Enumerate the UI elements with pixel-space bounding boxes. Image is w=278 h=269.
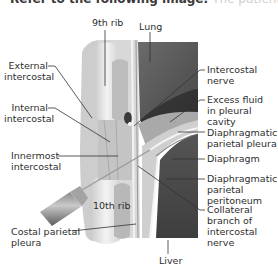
label-internal-intercostal: Internal intercostal bbox=[4, 102, 48, 124]
label-lung: Lung bbox=[139, 21, 162, 32]
label-diaphragm: Diaphragm bbox=[207, 153, 260, 164]
label-diaphragmatic-parietal-peritoneum: Diaphragmatic parietal peritoneum bbox=[207, 173, 277, 206]
label-diaphragmatic-parietal-pleura: Diaphragmatic parietal pleura bbox=[207, 127, 277, 149]
label-10th-rib: 10th rib bbox=[93, 200, 130, 211]
label-excess-fluid: Excess fluid in pleural cavity bbox=[207, 94, 263, 127]
label-collateral-branch: Collateral branch of intercostal nerve bbox=[207, 204, 257, 248]
label-external-intercostal: External intercostal bbox=[4, 60, 48, 82]
label-intercostal-nerve: Intercostal nerve bbox=[207, 64, 257, 86]
label-costal-parietal-pleura: Costal parietal pleura bbox=[11, 226, 80, 248]
label-liver: Liver bbox=[159, 255, 182, 266]
label-9th-rib: 9th rib bbox=[92, 17, 123, 28]
label-innermost-intercostal: Innermost intercostal bbox=[11, 150, 61, 172]
